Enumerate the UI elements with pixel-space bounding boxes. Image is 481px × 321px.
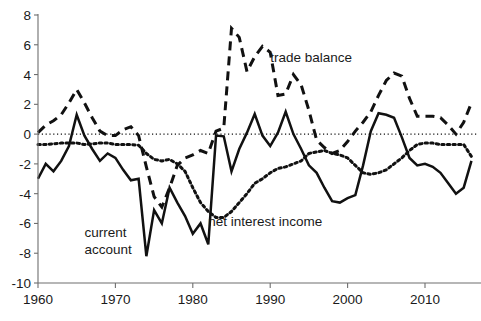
x-tick-label: 2010 bbox=[410, 292, 440, 307]
annotation-trade-balance: trade balance bbox=[270, 50, 352, 65]
x-tick-label: 2000 bbox=[333, 292, 363, 307]
x-tick-label: 1990 bbox=[255, 292, 285, 307]
y-tick-label: -10 bbox=[11, 276, 31, 291]
annotation-current-account: currentaccount bbox=[84, 225, 132, 257]
y-tick-label: -2 bbox=[19, 157, 31, 172]
y-tick-label: 2 bbox=[23, 97, 31, 112]
y-tick-label: -8 bbox=[19, 246, 31, 261]
y-tick-label: -6 bbox=[19, 216, 31, 231]
series-line-net-interest-income bbox=[38, 143, 471, 217]
annotation-net-interest-income: net interest income bbox=[208, 214, 322, 229]
x-tick-label: 1970 bbox=[100, 292, 130, 307]
x-axis-tick-labels: 196019701980199020002010 bbox=[23, 283, 440, 307]
y-tick-label: 4 bbox=[23, 68, 31, 83]
y-tick-label: -4 bbox=[19, 187, 31, 202]
y-tick-label: 8 bbox=[23, 8, 31, 23]
chart-container: 86420-2-4-6-8-10 19601970198019902000201… bbox=[0, 0, 481, 321]
series-line-trade-balance bbox=[38, 28, 471, 207]
y-tick-label: 0 bbox=[23, 127, 31, 142]
x-tick-label: 1980 bbox=[178, 292, 208, 307]
x-tick-label: 1960 bbox=[23, 292, 53, 307]
y-axis-tick-labels: 86420-2-4-6-8-10 bbox=[11, 8, 38, 291]
y-tick-label: 6 bbox=[23, 38, 31, 53]
economic-timeseries-chart: 86420-2-4-6-8-10 19601970198019902000201… bbox=[0, 0, 481, 321]
